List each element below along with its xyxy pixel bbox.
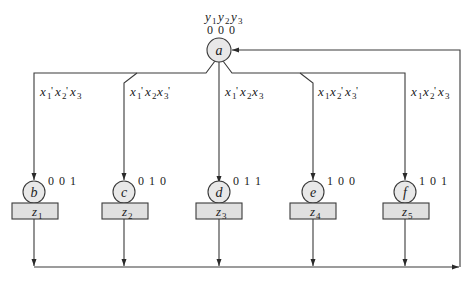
svg-text:z: z — [401, 204, 407, 219]
state-f-code: 1 0 1 — [419, 174, 448, 188]
svg-text:y: y — [229, 9, 237, 24]
svg-text:d: d — [216, 185, 224, 200]
svg-text:x: x — [239, 84, 246, 99]
branch-lines — [34, 61, 405, 183]
svg-text:z: z — [31, 204, 37, 219]
svg-text:3: 3 — [259, 91, 264, 101]
svg-text:': ' — [356, 84, 358, 96]
svg-text:z: z — [121, 204, 127, 219]
state-node-b: b 0 0 1 z1 — [12, 174, 77, 221]
svg-text:x: x — [251, 84, 258, 99]
svg-text:x: x — [437, 84, 444, 99]
condition-labels: x1' x2' x3 x1' x2 x3' x1' x2 x3 x1 x2' x… — [39, 84, 450, 101]
svg-text:1: 1 — [418, 91, 423, 101]
state-b-code: 0 0 1 — [48, 174, 77, 188]
svg-text:': ' — [434, 84, 436, 96]
svg-text:3: 3 — [238, 16, 243, 26]
state-node-f: f 1 0 1 z5 — [383, 174, 448, 221]
svg-text:x: x — [422, 84, 429, 99]
svg-text:': ' — [66, 84, 68, 96]
svg-text:': ' — [51, 84, 53, 96]
svg-text:1: 1 — [38, 211, 43, 221]
condition-d: x1' x2 x3 — [224, 84, 264, 101]
svg-text:x: x — [317, 84, 324, 99]
svg-text:y: y — [203, 9, 211, 24]
state-node-e: e 1 0 0 z4 — [290, 174, 356, 221]
svg-text:2: 2 — [152, 91, 157, 101]
condition-c: x1' x2 x3' — [129, 84, 170, 101]
state-a-label: a — [216, 43, 223, 58]
state-e-code: 1 0 0 — [327, 174, 356, 188]
svg-text:5: 5 — [408, 211, 413, 221]
state-d-code: 0 1 1 — [233, 174, 262, 188]
svg-text:': ' — [341, 84, 343, 96]
svg-text:': ' — [168, 84, 170, 96]
svg-text:x: x — [410, 84, 417, 99]
svg-text:2: 2 — [128, 211, 133, 221]
svg-text:1: 1 — [325, 91, 330, 101]
svg-text:3: 3 — [222, 211, 227, 221]
svg-text:b: b — [31, 185, 38, 200]
svg-text:z: z — [215, 204, 221, 219]
svg-text:z: z — [309, 204, 315, 219]
feedback-lines — [34, 50, 460, 267]
state-node-d: d 0 1 1 z3 — [196, 174, 262, 221]
condition-b: x1' x2' x3 — [39, 84, 82, 101]
svg-text:x: x — [329, 84, 336, 99]
svg-text:x: x — [344, 84, 351, 99]
state-diagram: y 1 y 2 y 3 0 0 0 a x1' x2' — [0, 0, 473, 283]
state-node-a: a — [207, 38, 231, 62]
svg-text:x: x — [129, 84, 136, 99]
svg-text:x: x — [54, 84, 61, 99]
svg-text:y: y — [216, 9, 224, 24]
svg-text:': ' — [236, 84, 238, 96]
svg-text:3: 3 — [445, 91, 450, 101]
svg-text:': ' — [141, 84, 143, 96]
svg-text:c: c — [121, 185, 128, 200]
svg-text:x: x — [69, 84, 76, 99]
svg-text:4: 4 — [316, 211, 321, 221]
condition-f: x1 x2' x3 — [410, 84, 450, 101]
svg-text:2: 2 — [247, 91, 252, 101]
svg-text:x: x — [224, 84, 231, 99]
condition-e: x1 x2' x3' — [317, 84, 358, 101]
state-node-c: c 0 1 0 z2 — [102, 174, 167, 221]
svg-text:x: x — [39, 84, 46, 99]
svg-text:x: x — [144, 84, 151, 99]
state-a-code: 0 0 0 — [207, 23, 236, 37]
svg-text:3: 3 — [77, 91, 82, 101]
state-c-code: 0 1 0 — [138, 174, 167, 188]
svg-text:x: x — [156, 84, 163, 99]
svg-text:e: e — [310, 185, 316, 200]
